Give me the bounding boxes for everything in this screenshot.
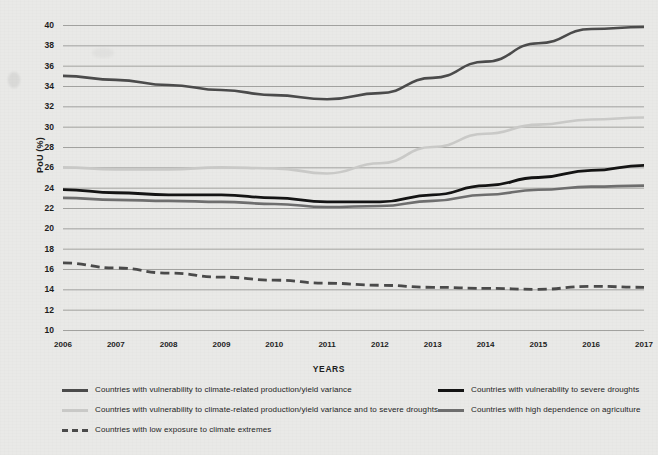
- legend-item[interactable]: Countries with low exposure to climate e…: [62, 426, 271, 434]
- series-line: [63, 186, 644, 207]
- legend-swatch-icon: [438, 389, 464, 392]
- chart-root: PoU (%) YEARS 40383634323028262422201816…: [0, 0, 658, 455]
- legend-label: Countries with vulnerability to climate-…: [95, 406, 438, 414]
- legend-item[interactable]: Countries with high dependence on agricu…: [438, 406, 641, 414]
- series-line: [63, 118, 644, 174]
- gridlines: [63, 26, 644, 331]
- series-line: [63, 165, 644, 202]
- legend-label: Countries with vulnerability to severe d…: [471, 386, 639, 394]
- legend-item[interactable]: Countries with vulnerability to climate-…: [62, 406, 438, 414]
- legend-label: Countries with low exposure to climate e…: [95, 426, 271, 434]
- series-line: [63, 27, 644, 99]
- legend-item[interactable]: Countries with vulnerability to climate-…: [62, 386, 352, 394]
- legend-swatch-icon: [62, 429, 88, 432]
- legend-item[interactable]: Countries with vulnerability to severe d…: [438, 386, 639, 394]
- series-line: [63, 263, 644, 289]
- legend-swatch-icon: [62, 409, 88, 412]
- legend-label: Countries with vulnerability to climate-…: [95, 386, 352, 394]
- chart-legend: Countries with vulnerability to climate-…: [0, 386, 658, 448]
- legend-label: Countries with high dependence on agricu…: [471, 406, 641, 414]
- legend-swatch-icon: [438, 409, 464, 412]
- legend-swatch-icon: [62, 389, 88, 392]
